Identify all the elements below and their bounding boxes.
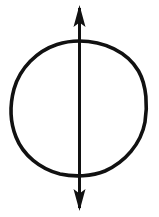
figure-canvas [0, 0, 159, 217]
diagram-svg [0, 0, 159, 217]
